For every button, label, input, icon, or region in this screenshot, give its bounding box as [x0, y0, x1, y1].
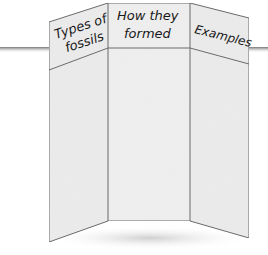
center-heading-line-1: How they: [117, 8, 179, 23]
trifold-board-diagram: Types of fossils How they formed Example…: [0, 0, 268, 255]
board-svg: Types of fossils How they formed Example…: [0, 0, 268, 255]
center-heading-line-2: formed: [124, 26, 172, 41]
